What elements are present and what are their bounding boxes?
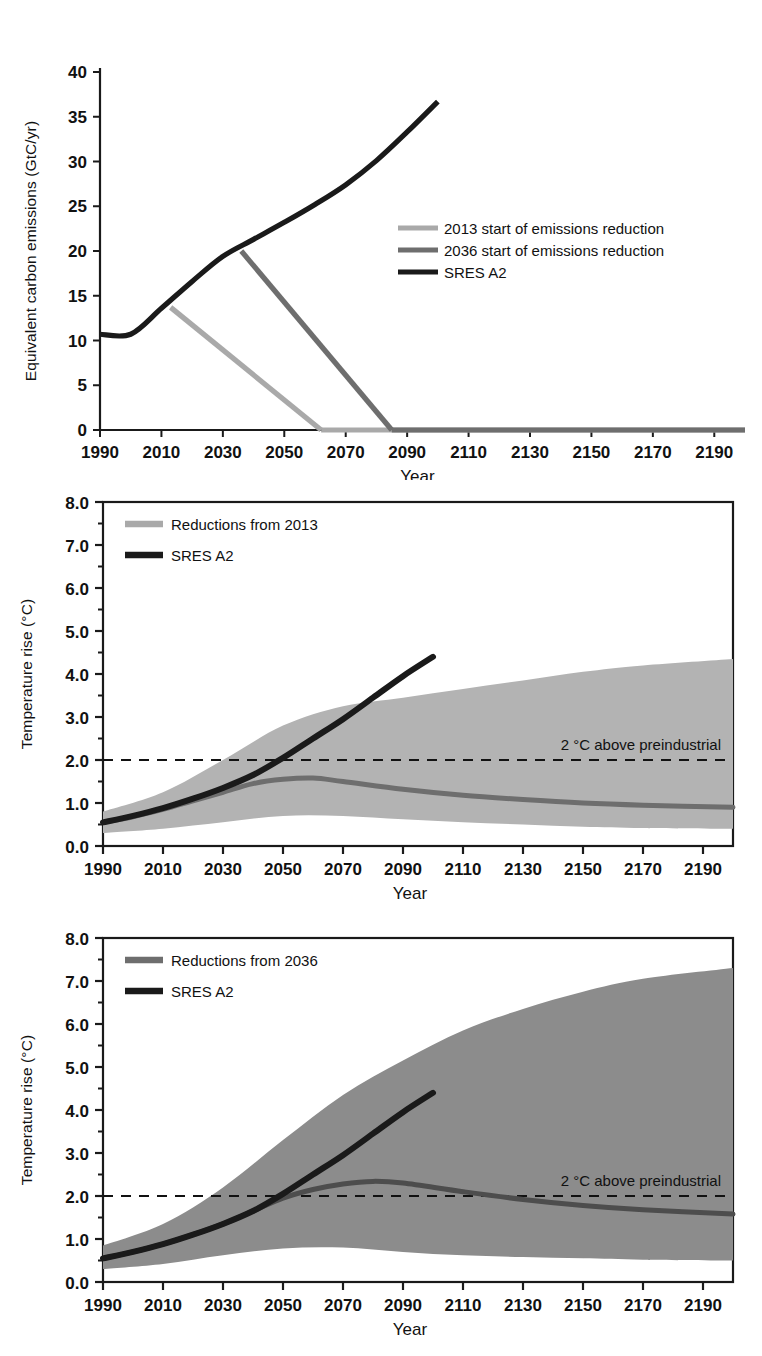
y-tick-label: 1.0 [65, 1231, 89, 1250]
threshold-annotation: 2 °C above preindustrial [561, 1172, 721, 1189]
figure-page: Equivalent carbon emissions (GtC/yr)0510… [0, 0, 762, 1356]
y-tick-label: 2.0 [65, 1188, 89, 1207]
x-tick-label: 2030 [204, 443, 242, 462]
x-tick-label: 2190 [695, 443, 733, 462]
x-tick-label: 2190 [684, 1296, 722, 1315]
y-axis-label: Equivalent carbon emissions (GtC/yr) [22, 121, 39, 381]
y-tick-label: 4.0 [65, 666, 89, 685]
y-tick-label: 35 [68, 108, 87, 127]
x-tick-label: 2010 [144, 860, 182, 879]
series-line [100, 102, 438, 337]
series-line [171, 307, 322, 430]
legend-label: Reductions from 2036 [171, 952, 318, 969]
threshold-annotation: 2 °C above preindustrial [561, 736, 721, 753]
x-axis-title: Year [400, 467, 435, 480]
x-tick-label: 1990 [81, 443, 119, 462]
x-axis-title: Year [393, 1320, 428, 1339]
y-tick-label: 4.0 [65, 1102, 89, 1121]
emissions-chart-svg: Equivalent carbon emissions (GtC/yr)0510… [0, 0, 762, 480]
chart-panel-temp-2013: Temperature rise (°C)2 °C above preindus… [0, 480, 762, 900]
temperature-2036-chart-svg: Temperature rise (°C)2 °C above preindus… [0, 900, 762, 1356]
chart-panel-temp-2036: Temperature rise (°C)2 °C above preindus… [0, 900, 762, 1356]
x-tick-label: 2170 [624, 1296, 662, 1315]
x-tick-label: 2070 [327, 443, 365, 462]
x-tick-label: 2170 [624, 860, 662, 879]
legend-label: SRES A2 [171, 983, 234, 1000]
y-tick-label: 5.0 [65, 623, 89, 642]
temperature-2013-chart-svg: Temperature rise (°C)2 °C above preindus… [0, 480, 762, 900]
y-tick-label: 7.0 [65, 973, 89, 992]
x-tick-label: 1990 [84, 860, 122, 879]
x-tick-label: 2010 [144, 1296, 182, 1315]
y-axis-label: Temperature rise (°C) [18, 1035, 35, 1185]
legend-label: 2013 start of emissions reduction [444, 220, 664, 237]
x-tick-label: 2150 [564, 1296, 602, 1315]
x-tick-label: 2090 [384, 860, 422, 879]
x-tick-label: 2150 [564, 860, 602, 879]
x-tick-label: 2070 [324, 1296, 362, 1315]
y-tick-label: 20 [68, 242, 87, 261]
x-tick-label: 2150 [573, 443, 611, 462]
x-tick-label: 2110 [445, 860, 482, 879]
y-tick-label: 0.0 [65, 1274, 89, 1293]
x-tick-label: 2050 [264, 860, 302, 879]
y-tick-label: 3.0 [65, 709, 89, 728]
x-tick-label: 2030 [204, 1296, 242, 1315]
y-tick-label: 6.0 [65, 580, 89, 599]
x-tick-label: 2090 [384, 1296, 422, 1315]
x-tick-label: 2170 [634, 443, 672, 462]
y-tick-label: 6.0 [65, 1016, 89, 1035]
x-tick-label: 2110 [445, 1296, 482, 1315]
y-tick-label: 0 [78, 421, 87, 440]
y-tick-label: 25 [68, 197, 87, 216]
legend-label: Reductions from 2013 [171, 516, 318, 533]
x-tick-label: 2030 [204, 860, 242, 879]
y-tick-label: 10 [68, 332, 87, 351]
x-tick-label: 2110 [450, 443, 487, 462]
y-tick-label: 5.0 [65, 1059, 89, 1078]
y-axis-label: Temperature rise (°C) [18, 599, 35, 749]
y-tick-label: 30 [68, 153, 87, 172]
x-tick-label: 2050 [265, 443, 303, 462]
x-tick-label: 2130 [504, 1296, 542, 1315]
x-tick-label: 2130 [504, 860, 542, 879]
y-tick-label: 40 [68, 63, 87, 82]
y-tick-label: 7.0 [65, 537, 89, 556]
x-tick-label: 2050 [264, 1296, 302, 1315]
y-tick-label: 3.0 [65, 1145, 89, 1164]
x-tick-label: 2190 [684, 860, 722, 879]
y-tick-label: 1.0 [65, 795, 89, 814]
y-tick-label: 0.0 [65, 838, 89, 857]
x-axis-title: Year [393, 884, 428, 900]
y-tick-label: 15 [68, 287, 87, 306]
y-tick-label: 8.0 [65, 930, 89, 949]
series-line [241, 251, 392, 430]
legend-label: SRES A2 [171, 547, 234, 564]
x-tick-label: 2070 [324, 860, 362, 879]
y-tick-label: 8.0 [65, 494, 89, 513]
y-tick-label: 2.0 [65, 752, 89, 771]
chart-panel-emissions: Equivalent carbon emissions (GtC/yr)0510… [0, 0, 762, 480]
x-tick-label: 2010 [143, 443, 181, 462]
legend-label: SRES A2 [444, 264, 507, 281]
y-tick-label: 5 [78, 376, 87, 395]
x-tick-label: 2130 [511, 443, 549, 462]
legend-label: 2036 start of emissions reduction [444, 242, 664, 259]
x-tick-label: 1990 [84, 1296, 122, 1315]
x-tick-label: 2090 [388, 443, 426, 462]
